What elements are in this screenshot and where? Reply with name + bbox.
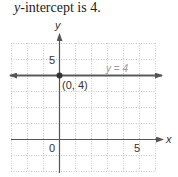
y-intercept-point bbox=[57, 73, 63, 79]
coordinate-plane: y x 0 5 5 (0, 4) y = 4 bbox=[0, 0, 178, 177]
origin-label: 0 bbox=[49, 142, 55, 154]
y-axis-label: y bbox=[54, 19, 62, 31]
point-label: (0, 4) bbox=[62, 79, 88, 91]
x-tick-5-label: 5 bbox=[134, 142, 140, 154]
x-axis-label: x bbox=[165, 133, 172, 145]
line-equation-label: y = 4 bbox=[105, 63, 128, 74]
y-tick-5-label: 5 bbox=[49, 54, 55, 66]
